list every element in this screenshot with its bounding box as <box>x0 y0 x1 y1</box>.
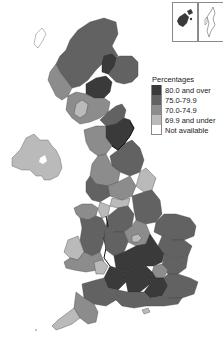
region-mid-wales <box>80 216 106 256</box>
legend-label: 70.0-74.9 <box>165 106 197 115</box>
legend-item: 69.9 and under <box>151 115 223 125</box>
inset-orkney <box>172 2 198 42</box>
legend-item: 70.0-74.9 <box>151 105 223 115</box>
region-western-isles <box>34 28 46 48</box>
region-scotland-central <box>86 76 112 98</box>
orkney-islands-icon <box>173 3 197 41</box>
legend-swatch <box>151 115 162 125</box>
isles-of-scilly <box>35 329 37 331</box>
legend-label: 69.9 and under <box>165 116 215 125</box>
region-northern-ireland <box>12 134 62 180</box>
region-norfolk <box>154 214 196 240</box>
legend-title: Percentages <box>152 75 223 85</box>
legend-swatch <box>151 125 162 135</box>
legend-swatch <box>151 105 162 115</box>
region-hampshire <box>116 290 150 308</box>
region-cornwall <box>52 308 80 330</box>
region-south-wales-valleys <box>94 260 108 274</box>
map-legend: Percentages 80.0 and over 75.0-79.9 70.0… <box>151 75 223 135</box>
uk-choropleth-map <box>0 0 223 340</box>
inset-shetland <box>198 2 223 42</box>
legend-item: 80.0 and over <box>151 85 223 95</box>
legend-swatch <box>151 95 162 105</box>
legend-swatch <box>151 85 162 95</box>
legend-label: Not available <box>165 126 208 135</box>
legend-item: 75.0-79.9 <box>151 95 223 105</box>
region-isle-of-wight <box>142 308 150 314</box>
legend-label: 80.0 and over <box>165 86 211 95</box>
region-lincolnshire <box>132 190 162 224</box>
region-scotland-highlands <box>56 18 118 88</box>
legend-label: 75.0-79.9 <box>165 96 197 105</box>
shetland-islands-icon <box>199 3 223 41</box>
legend-item: Not available <box>151 125 223 135</box>
